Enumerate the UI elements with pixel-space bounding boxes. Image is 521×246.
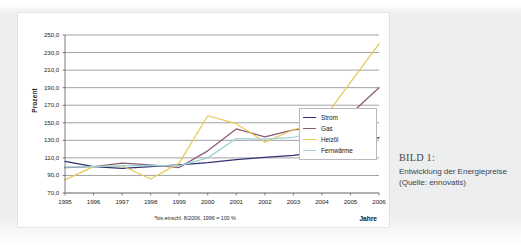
caption-body: Entwicklung der Energiepreise (Quelle: e… [399,166,511,189]
plot-area: Prozent 250,0230,0210,0190,0170,0150,013… [18,13,389,227]
figure-caption: BILD 1: Entwicklung der Energiepreise (Q… [399,152,511,189]
x-tick-label: 2004 [309,198,335,205]
legend-item[interactable]: Gas [303,123,374,134]
x-tick-label: 1996 [81,198,107,205]
chart-card: Prozent 250,0230,0210,0190,0170,0150,013… [18,13,389,227]
x-tick-label: 2005 [337,198,363,205]
y-tick-label: 150,0 [29,119,59,126]
legend-label: Gas [321,125,333,132]
legend-swatch-icon [303,150,316,151]
legend-swatch-icon [303,139,316,140]
legend-label: Heizöl [321,136,338,143]
legend-item[interactable]: Strom [303,112,374,123]
chart-legend: StromGasHeizölFernwärme [299,108,377,160]
caption-title: BILD 1: [399,152,511,163]
x-tick-label: 1995 [52,198,78,205]
x-tick-label: 1997 [109,198,135,205]
legend-label: Strom [321,114,338,121]
legend-item[interactable]: Heizöl [303,134,374,145]
legend-label: Fernwärme [321,147,353,154]
legend-swatch-icon [303,128,316,129]
legend-item[interactable]: Fernwärme [303,145,374,156]
y-tick-label: 70,0 [29,189,59,196]
chart-footnote: *bis einschl. 8/2006, 1996 = 100 % [70,215,320,221]
x-tick-label: 2002 [252,198,278,205]
y-tick-label: 190,0 [29,84,59,91]
y-tick-label: 130,0 [29,136,59,143]
series-line-fernwrme [65,132,322,168]
y-tick-label: 170,0 [29,101,59,108]
y-tick-label: 250,0 [29,31,59,38]
y-tick-label: 210,0 [29,66,59,73]
x-tick-label: 1999 [166,198,192,205]
legend-swatch-icon [303,117,316,118]
y-tick-label: 230,0 [29,49,59,56]
x-tick-label: 2001 [223,198,249,205]
y-tick-label: 90,0 [29,171,59,178]
x-tick-label: 2000 [195,198,221,205]
x-tick-label: 2006 [366,198,392,205]
x-tick-label: 2003 [280,198,306,205]
y-tick-label: 110,0 [29,154,59,161]
x-tick-label: 1998 [138,198,164,205]
x-axis-title: Jahre [359,215,377,222]
